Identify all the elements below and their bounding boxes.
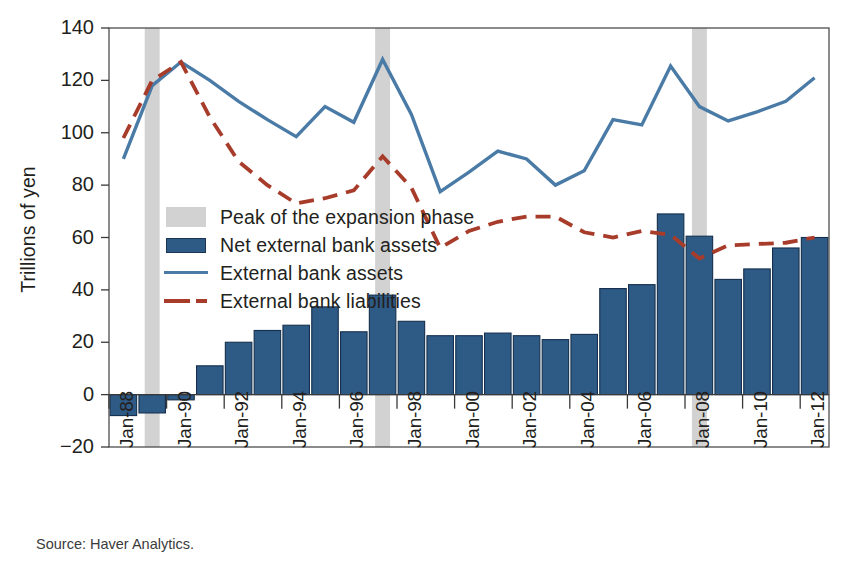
legend-item: Peak of the expansion phase [163, 203, 493, 231]
legend-item-label: Net external bank assets [220, 234, 437, 257]
legend-item-label: Peak of the expansion phase [220, 206, 474, 229]
x-axis-tick-label: Jan-98 [404, 391, 426, 448]
legend-item: External bank assets [163, 259, 493, 287]
legend-key [163, 203, 209, 231]
legend-item-label: External bank liabilities [220, 290, 421, 313]
x-axis-tick-label: Jan-92 [231, 391, 253, 448]
legend-key [163, 287, 209, 315]
chart-figure: Trillions of yen 140120100806040200−20 J… [0, 0, 853, 565]
x-axis-tick-label: Jan-04 [577, 391, 599, 448]
legend-item: Net external bank assets [163, 231, 493, 259]
x-axis-tick-label: Jan-96 [346, 391, 368, 448]
x-axis-tick-label: Jan-90 [174, 391, 196, 448]
legend-dash-swatch-2 [196, 299, 207, 303]
legend-item-label: External bank assets [220, 262, 403, 285]
x-axis-tick-label: Jan-12 [807, 391, 829, 448]
x-axis-tick-label: Jan-08 [692, 391, 714, 448]
legend-item: External bank liabilities [163, 287, 493, 315]
legend-band-swatch [166, 207, 206, 227]
legend-bar-swatch [166, 238, 206, 253]
legend-key [163, 231, 209, 259]
legend-line-swatch [164, 271, 208, 274]
x-axis-tick-label: Jan-94 [289, 391, 311, 448]
chart-legend: Peak of the expansion phaseNet external … [163, 203, 493, 315]
x-axis-tick-label: Jan-06 [634, 391, 656, 448]
source-note: Source: Haver Analytics. [36, 536, 194, 552]
x-axis-tick-label: Jan-02 [519, 391, 541, 448]
x-axis-tick-label: Jan-10 [750, 391, 772, 448]
x-axis-tick-label: Jan-00 [462, 391, 484, 448]
x-axis-tick-label: Jan-88 [116, 391, 138, 448]
legend-dash-swatch [164, 299, 190, 303]
legend-key [163, 259, 209, 287]
